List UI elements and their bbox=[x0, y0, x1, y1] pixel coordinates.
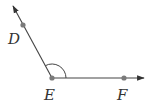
label-d: D bbox=[7, 30, 20, 48]
point-f bbox=[121, 75, 126, 80]
point-e bbox=[49, 75, 54, 80]
label-e: E bbox=[43, 86, 55, 104]
label-f: F bbox=[116, 86, 128, 104]
point-d bbox=[20, 22, 25, 27]
angle-diagram: D E F bbox=[0, 0, 152, 108]
